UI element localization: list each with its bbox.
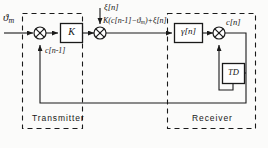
global-feedback-path bbox=[40, 45, 246, 103]
output-signal-label: c[n] bbox=[226, 18, 241, 27]
feedback-signal-label: c[n-1] bbox=[45, 47, 65, 55]
channel-signal-label: K(c[n-1]−ϑm)+ξ[n] bbox=[103, 17, 167, 26]
delay-block-label: TD bbox=[223, 68, 245, 77]
transmitter-zone-label: Transmitter bbox=[32, 113, 85, 123]
input-signal-label: ϑm bbox=[3, 12, 14, 25]
receiver-zone-label: Receiver bbox=[192, 113, 233, 123]
gamma-block-label: γ[n] bbox=[175, 27, 203, 36]
noise-signal-label: ξ[n] bbox=[104, 3, 119, 12]
block-diagram-figure: ϑm c[n-1] ξ[n] K(c[n-1]−ϑm)+ξ[n] c[n] K … bbox=[0, 0, 268, 148]
gain-block-label: K bbox=[61, 27, 83, 37]
